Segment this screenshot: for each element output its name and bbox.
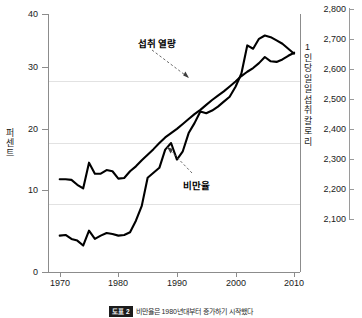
caption-text: 비만율은 1980년대부터 증가하기 시작했다 [136,308,253,315]
series-annotation-calorie: 섭취 열량 [138,36,176,50]
series-line-obesity [60,53,294,189]
chart-lines-layer [0,0,362,318]
series-annotation-obesity: 비만율 [183,178,209,192]
chart-figure: 40 30 20 10 0 퍼센트 2,800 2,700 2,600 2,50… [0,0,362,318]
figure-caption: 도표 2비만율은 1980년대부터 증가하기 시작했다 [0,306,362,317]
leader-arrow-calorie [152,50,189,78]
caption-badge: 도표 2 [109,306,132,317]
series-line-calorie [60,36,294,246]
leader-arrow-obesity [167,147,192,173]
